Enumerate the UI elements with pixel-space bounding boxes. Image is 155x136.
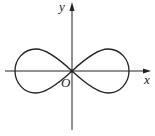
coordinate-diagram: y x O: [0, 0, 155, 136]
origin-point: [70, 69, 73, 72]
x-axis-label: x: [143, 72, 150, 87]
y-axis-arrow-icon: [70, 2, 75, 11]
origin-label: O: [61, 75, 71, 90]
y-axis-label: y: [57, 0, 65, 14]
